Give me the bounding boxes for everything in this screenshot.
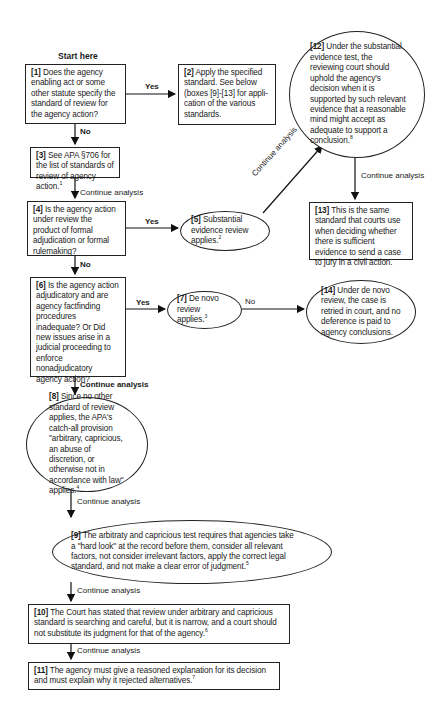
node-number: [13]	[315, 206, 329, 215]
edge-label-12-13: Continue analysis	[361, 171, 424, 180]
footnote-ref: 7	[192, 675, 195, 681]
node-text: The agency must give a reasoned explanat…	[34, 666, 266, 685]
edge-label-4-5: Yes	[145, 217, 159, 226]
node-text: Does the agency enabling act or some oth…	[31, 68, 115, 119]
node-3-apa-706: [3] See APA §706 for the list of standar…	[30, 147, 120, 178]
start-label: Start here	[58, 52, 98, 61]
edge-label-3-4: Continue analysis	[80, 188, 143, 197]
node-number: [10]	[34, 608, 48, 617]
node-number: [14]	[321, 286, 335, 295]
edge-label-10-11: Continue analysis	[77, 646, 140, 655]
footnote-ref: 1	[59, 180, 62, 186]
node-1-agency-statute-question: [1] Does the agency enabling act or some…	[25, 64, 126, 124]
node-text: The arbitraty and capricious test requir…	[71, 531, 294, 571]
node-text: Apply the specified standard. See below …	[184, 68, 268, 119]
footnote-ref: 5	[246, 561, 249, 567]
edge-label-1-3: No	[80, 127, 91, 136]
edge-label-4-6: No	[80, 260, 91, 269]
node-7-de-novo: [7] De novo review applies.3	[167, 291, 242, 329]
node-number: [1]	[31, 68, 41, 77]
node-number: [5]	[191, 215, 201, 224]
node-number: [11]	[34, 666, 48, 675]
edge-label-8-9: Continue analysis	[77, 497, 140, 506]
footnote-ref: 8	[350, 134, 353, 140]
node-text: Is the agency action adjudicatory and ar…	[36, 281, 119, 384]
node-10-searching-and-careful: [10] The Court has stated that review un…	[28, 604, 290, 644]
footnote-ref: 4	[76, 484, 79, 490]
edge-label-9-10: Continue analysis	[77, 586, 140, 595]
edge-label-6-7: Yes	[136, 298, 150, 307]
node-2-apply-specified-standard: [2] Apply the specified standard. See be…	[178, 64, 276, 125]
node-14-de-novo-retrial: [14] Under de novo review, the case is r…	[306, 280, 416, 344]
edge-label-1-2: Yes	[145, 82, 159, 91]
footnote-ref: 2	[218, 234, 221, 240]
node-11-reasoned-explanation: [11] The agency must give a reasoned exp…	[28, 662, 280, 690]
node-12-substantial-evidence-test: [12] Under the substantial evidence test…	[289, 31, 425, 158]
node-number: [4]	[33, 205, 43, 214]
node-6-adjudicatory-question: [6] Is the agency action adjudicatory an…	[30, 277, 126, 377]
node-text: Is the agency action under review the pr…	[33, 205, 116, 256]
edge-label-6-8: Continue analysis	[80, 380, 148, 389]
node-number: [8]	[49, 392, 59, 401]
node-text: This is the same standard that courts us…	[315, 206, 401, 267]
node-number: [9]	[71, 531, 81, 540]
node-5-substantial-evidence: [5] Substantial evidence review applies.…	[180, 211, 270, 251]
node-number: [7]	[177, 294, 187, 303]
node-text: Under the substantial evidence test, the…	[310, 42, 406, 145]
node-9-hard-look-test: [9] The arbitraty and capricious test re…	[52, 520, 332, 584]
node-8-catch-all-provision: [8] Since no other standard of review ap…	[26, 397, 148, 492]
footnote-ref: 3	[204, 313, 207, 319]
node-number: [12]	[310, 42, 324, 51]
node-13-jury-standard: [13] This is the same standard that cour…	[309, 202, 413, 260]
edge-label-7-14: No	[245, 297, 255, 306]
node-4-formal-adjudication-question: [4] Is the agency action under review th…	[27, 201, 126, 256]
node-number: [3]	[36, 151, 46, 160]
node-text: The Court has stated that review under a…	[34, 608, 277, 638]
node-number: [2]	[184, 68, 194, 77]
node-number: [6]	[36, 281, 46, 290]
footnote-ref: 6	[205, 627, 208, 633]
node-text: Since no other standard of review applie…	[49, 392, 124, 495]
